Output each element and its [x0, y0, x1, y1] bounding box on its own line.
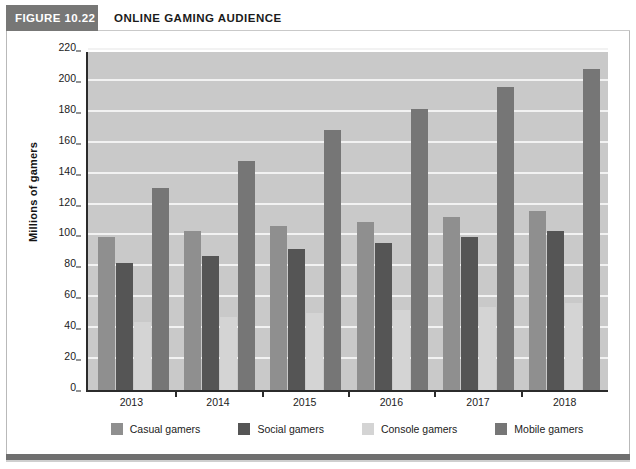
legend-swatch-icon	[495, 423, 507, 435]
plot-area	[86, 52, 608, 392]
y-axis-tick-label: 100	[58, 226, 76, 238]
y-axis-tick-mark	[76, 267, 81, 268]
figure-title: ONLINE GAMING AUDIENCE	[114, 12, 282, 24]
bar-mobile-gamers-2013	[152, 188, 169, 390]
y-axis-tick-label: 160	[58, 134, 76, 146]
y-axis-tick-label: 140	[58, 165, 76, 177]
x-axis-tick-label: 2016	[348, 396, 435, 408]
bar-console-gamers-2018	[565, 303, 582, 390]
bar-group-2013	[90, 52, 176, 390]
y-axis-tick-mark	[76, 391, 81, 392]
y-axis-tick-label: 220	[58, 41, 76, 53]
legend-swatch-icon	[362, 423, 374, 435]
y-axis-tick-label: 20	[64, 350, 76, 362]
y-axis-tick-label: 180	[58, 103, 76, 115]
bar-group-2015	[263, 52, 349, 390]
figure-page: FIGURE 10.22 ONLINE GAMING AUDIENCE Mill…	[0, 0, 636, 469]
legend-item-social-gamers[interactable]: Social gamers	[238, 423, 324, 435]
x-axis-tick-label: 2014	[175, 396, 262, 408]
gridline	[88, 48, 608, 50]
x-axis-tick-label: 2013	[88, 396, 175, 408]
bar-casual-gamers-2018	[529, 211, 546, 390]
bar-casual-gamers-2015	[270, 226, 287, 390]
x-axis-tick-label: 2018	[521, 396, 608, 408]
bar-console-gamers-2016	[393, 310, 410, 390]
bar-social-gamers-2013	[116, 263, 133, 390]
y-axis-tick-mark	[76, 205, 81, 206]
bar-mobile-gamers-2016	[411, 109, 428, 390]
bottom-rule-shadow	[6, 460, 630, 462]
legend-label: Console gamers	[381, 423, 457, 435]
bar-social-gamers-2016	[375, 243, 392, 390]
bar-mobile-gamers-2014	[238, 161, 255, 390]
y-axis-tick-label: 60	[64, 288, 76, 300]
y-axis-tick-labels: 020406080100120140160180200220	[37, 52, 81, 392]
bar-casual-gamers-2016	[357, 222, 374, 390]
y-axis-tick-mark	[76, 329, 81, 330]
x-axis-tick-labels: 201320142015201620172018	[88, 396, 608, 408]
legend-swatch-icon	[238, 423, 250, 435]
y-axis-tick-label: 200	[58, 72, 76, 84]
y-axis-tick-mark	[76, 81, 81, 82]
figure-header: FIGURE 10.22 ONLINE GAMING AUDIENCE	[6, 5, 630, 31]
legend-item-console-gamers[interactable]: Console gamers	[362, 423, 457, 435]
bar-social-gamers-2015	[288, 249, 305, 390]
bar-mobile-gamers-2018	[583, 69, 600, 390]
y-axis-tick-label: 40	[64, 319, 76, 331]
bar-group-2017	[435, 52, 521, 390]
legend-label: Social gamers	[257, 423, 324, 435]
legend-item-casual-gamers[interactable]: Casual gamers	[111, 423, 201, 435]
bar-social-gamers-2017	[461, 237, 478, 390]
y-axis-tick-label: 120	[58, 196, 76, 208]
y-axis-tick-mark	[76, 143, 81, 144]
bar-casual-gamers-2013	[98, 237, 115, 390]
bar-social-gamers-2018	[547, 231, 564, 390]
bar-group-2018	[522, 52, 608, 390]
figure-title-bar: ONLINE GAMING AUDIENCE	[98, 5, 630, 31]
y-axis-tick-mark	[76, 298, 81, 299]
y-axis-tick-mark	[76, 174, 81, 175]
y-axis-tick-mark	[76, 112, 81, 113]
bar-console-gamers-2014	[220, 317, 237, 390]
x-axis-tick-label: 2015	[261, 396, 348, 408]
y-axis-tick-mark	[76, 360, 81, 361]
y-axis-tick-mark	[76, 236, 81, 237]
legend-label: Casual gamers	[130, 423, 201, 435]
chart-frame: Millions of gamers 020406080100120140160…	[6, 31, 630, 456]
y-axis-tick-label: 80	[64, 257, 76, 269]
figure-number-text: FIGURE 10.22	[15, 12, 95, 24]
bar-group-2014	[176, 52, 262, 390]
bar-social-gamers-2014	[202, 256, 219, 390]
bar-console-gamers-2015	[306, 313, 323, 390]
bar-mobile-gamers-2017	[497, 87, 514, 390]
y-axis-tick-mark	[76, 51, 81, 52]
bar-groups	[90, 52, 608, 390]
bar-mobile-gamers-2015	[324, 130, 341, 390]
x-axis-tick-label: 2017	[435, 396, 522, 408]
bar-console-gamers-2013	[134, 322, 151, 390]
legend-item-mobile-gamers[interactable]: Mobile gamers	[495, 423, 583, 435]
figure-number-tag: FIGURE 10.22	[6, 5, 98, 31]
bar-casual-gamers-2017	[443, 217, 460, 390]
chart-legend: Casual gamersSocial gamersConsole gamers…	[86, 423, 608, 435]
bar-group-2016	[349, 52, 435, 390]
legend-label: Mobile gamers	[514, 423, 583, 435]
bar-casual-gamers-2014	[184, 231, 201, 390]
legend-swatch-icon	[111, 423, 123, 435]
bar-console-gamers-2017	[479, 307, 496, 390]
